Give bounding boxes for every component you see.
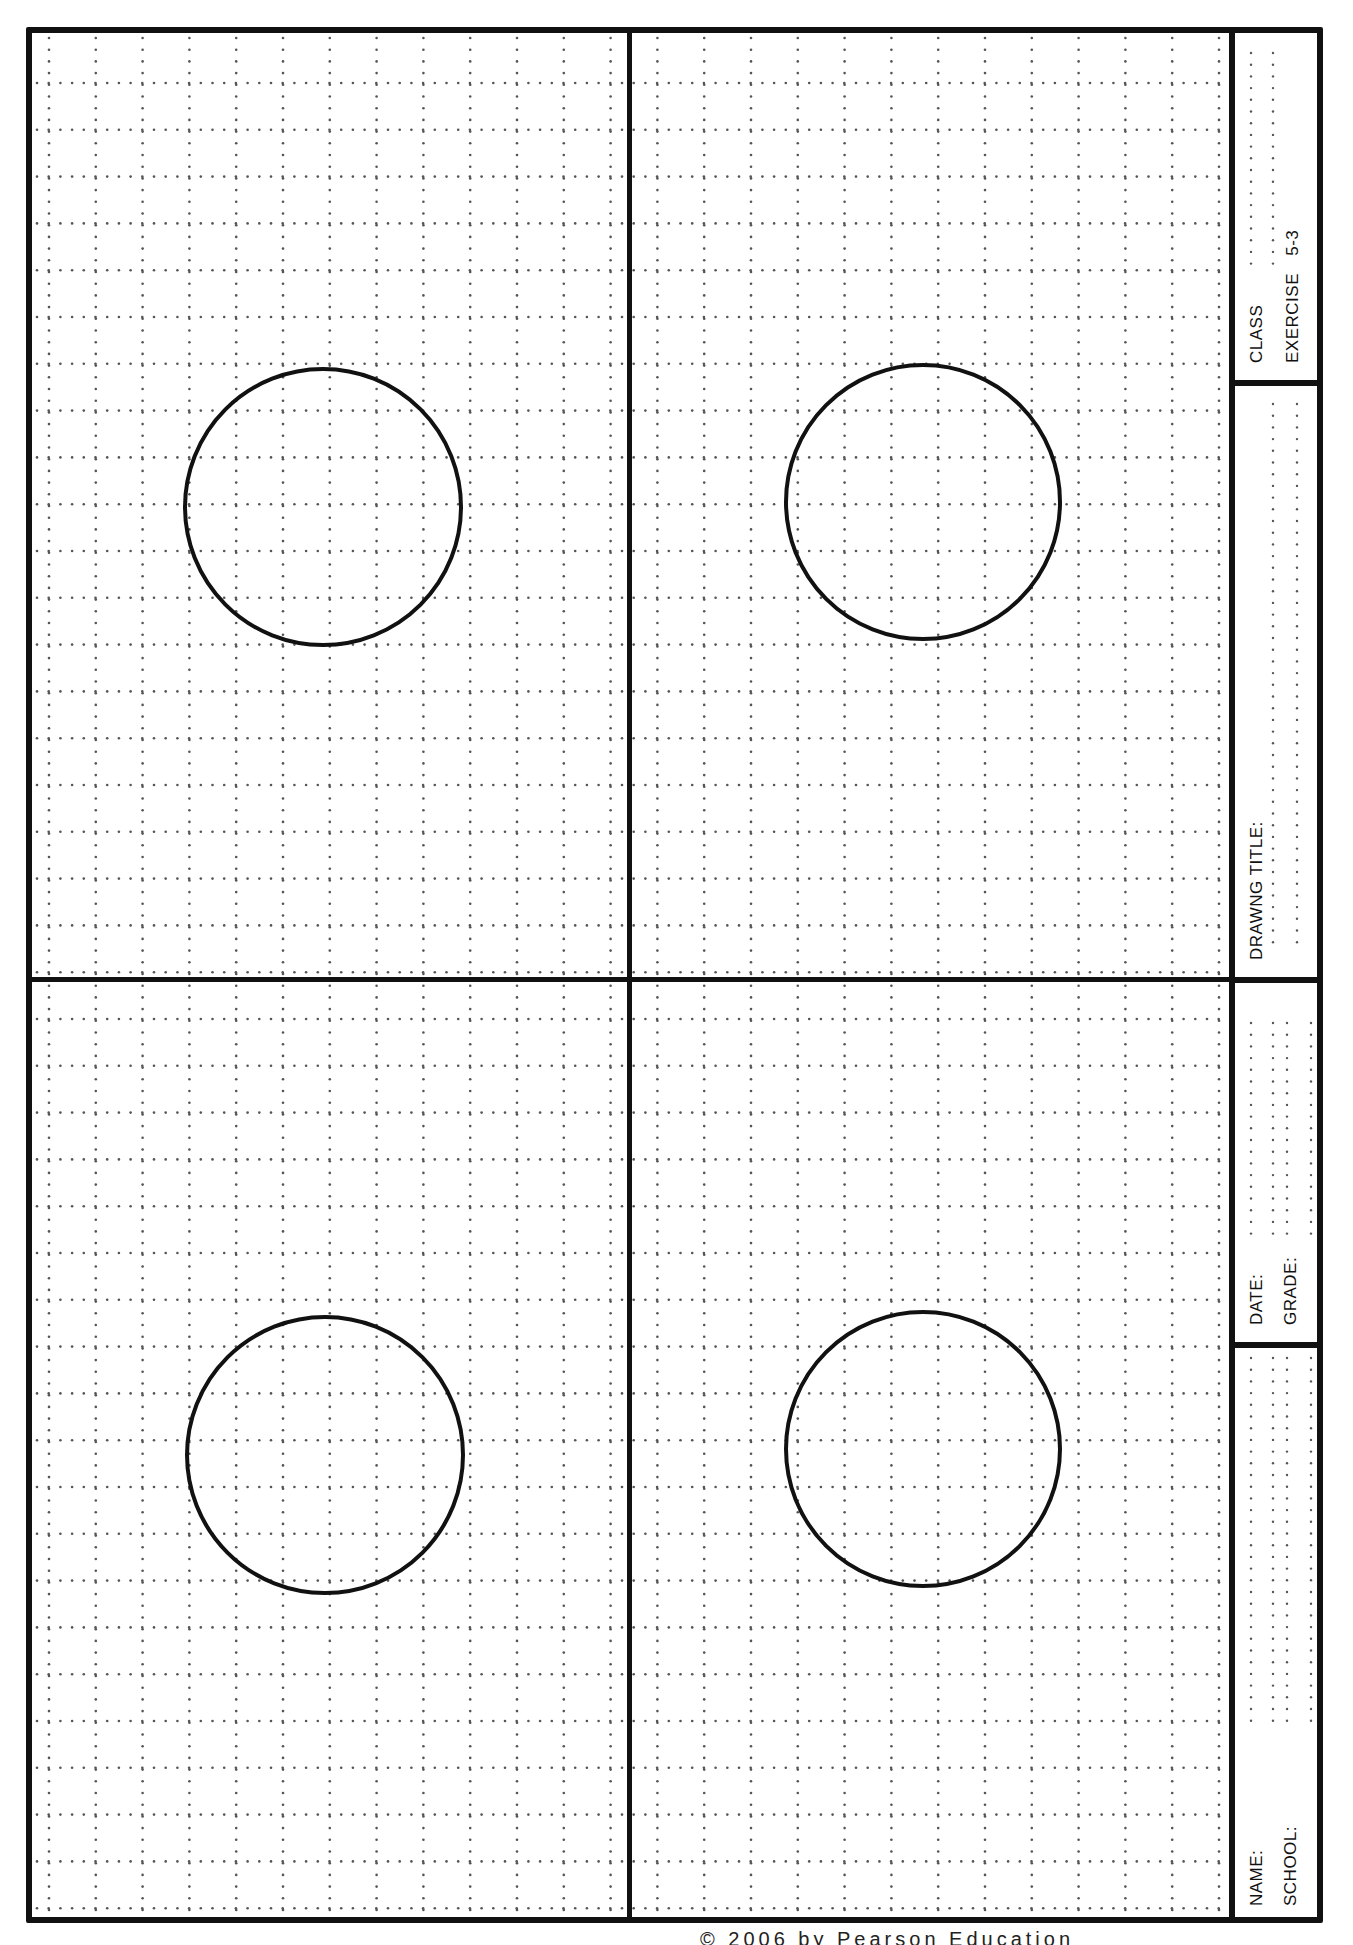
exercise-label: EXERCISE [1283, 273, 1302, 363]
school-label: SCHOOL: [1281, 1826, 1301, 1906]
title-block-drawing-title-cell[interactable]: DRAWNG TITLE: [1235, 380, 1317, 977]
title-block-name-school-cell[interactable]: NAME: SCHOOL: [1235, 1342, 1317, 1917]
exercise-label-row: EXERCISE 5-3 [1283, 230, 1303, 363]
panel-divider-vertical [627, 33, 632, 1917]
drawing-title-label: DRAWNG TITLE: [1247, 821, 1267, 960]
title-block-date-grade-cell[interactable]: DATE: GRADE: [1235, 977, 1317, 1342]
circle-top-right [784, 363, 1062, 641]
title-block: CLASS EXERCISE 5-3 DRAWNG TITLE: DATE: G… [1229, 33, 1317, 1917]
class-label: CLASS [1247, 305, 1267, 363]
exercise-number: 5-3 [1283, 230, 1302, 256]
copyright-notice: © 2006 by Pearson Education [700, 1928, 1074, 1945]
date-label: DATE: [1247, 1274, 1267, 1325]
panel-divider-horizontal [32, 977, 1231, 982]
title-block-class-cell[interactable]: CLASS EXERCISE 5-3 [1235, 33, 1317, 380]
circle-bottom-right [784, 1310, 1062, 1588]
grade-label: GRADE: [1281, 1257, 1301, 1325]
circle-top-left [183, 367, 463, 647]
name-school-field-dots [1235, 1348, 1317, 1917]
circle-bottom-left [185, 1315, 465, 1595]
name-label: NAME: [1247, 1850, 1267, 1906]
